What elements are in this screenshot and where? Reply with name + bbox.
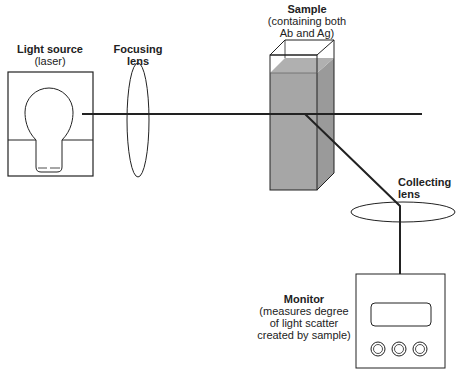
- label-collecting-lens: Collecting lens: [398, 176, 457, 200]
- label-sample: Sample (containing both Ab and Ag): [252, 3, 362, 39]
- label-light-source: Light source (laser): [0, 43, 100, 67]
- focusing-lens-title2: lens: [108, 55, 168, 67]
- monitor-title: Monitor: [250, 293, 358, 305]
- collecting-lens-title: Collecting: [398, 176, 457, 188]
- light-source-title: Light source: [0, 43, 100, 55]
- label-monitor: Monitor (measures degree of light scatte…: [250, 293, 358, 341]
- sample-sub2: Ab and Ag): [252, 27, 362, 39]
- monitor: [356, 274, 445, 368]
- sample-sub1: (containing both: [252, 15, 362, 27]
- monitor-sub3: created by sample): [250, 329, 358, 341]
- monitor-sub2: of light scatter: [250, 317, 358, 329]
- monitor-sub1: (measures degree: [250, 305, 358, 317]
- light-source-subtitle: (laser): [0, 55, 100, 67]
- focusing-lens-title: Focusing: [108, 43, 168, 55]
- bulb-icon: [25, 88, 73, 172]
- collecting-lens-title2: lens: [398, 188, 457, 200]
- light-source: [8, 72, 93, 176]
- collecting-lens: [351, 202, 455, 222]
- label-focusing-lens: Focusing lens: [108, 43, 168, 67]
- focusing-lens: [127, 63, 149, 177]
- sample-title: Sample: [252, 3, 362, 15]
